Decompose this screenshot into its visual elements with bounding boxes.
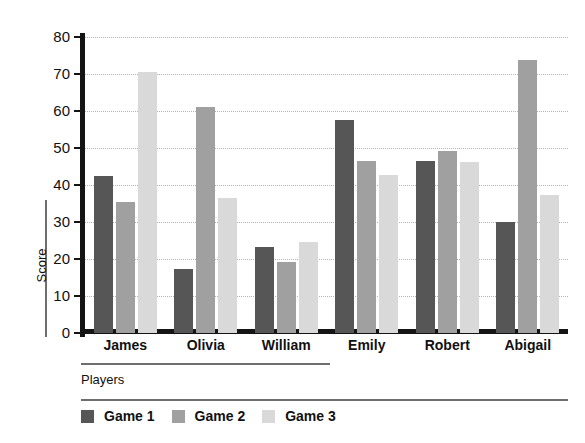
bar bbox=[299, 242, 318, 333]
plot-area bbox=[85, 37, 568, 333]
x-axis-category-label: William bbox=[246, 337, 327, 353]
legend-item[interactable]: Game 1 bbox=[81, 408, 155, 424]
bar bbox=[496, 222, 515, 333]
legend-label: Game 3 bbox=[285, 408, 336, 424]
legend-item[interactable]: Game 3 bbox=[262, 408, 336, 424]
bar bbox=[196, 107, 215, 333]
bar bbox=[174, 269, 193, 333]
y-tick-label: 70 bbox=[26, 66, 70, 81]
bar bbox=[94, 176, 113, 333]
legend-swatch-icon bbox=[172, 410, 185, 423]
bar bbox=[277, 262, 296, 333]
legend-item[interactable]: Game 2 bbox=[172, 408, 246, 424]
legend-swatch-icon bbox=[81, 410, 94, 423]
bar bbox=[416, 161, 435, 333]
x-axis-category-label: Robert bbox=[407, 337, 488, 353]
y-tick-label: 50 bbox=[26, 140, 70, 155]
bar-group bbox=[174, 37, 237, 333]
x-axis-category-label: Abigail bbox=[488, 337, 569, 353]
bar bbox=[218, 198, 237, 333]
bar-group bbox=[94, 37, 157, 333]
bar bbox=[540, 195, 559, 333]
legend: Game 1Game 2Game 3 bbox=[81, 408, 353, 424]
legend-rule bbox=[81, 399, 568, 401]
bar bbox=[255, 247, 274, 333]
bar-group bbox=[496, 37, 559, 333]
x-axis-title: Players bbox=[81, 372, 124, 387]
y-tick-label: 80 bbox=[26, 29, 70, 44]
y-tick-label: 60 bbox=[26, 103, 70, 118]
y-tick-label: 40 bbox=[26, 177, 70, 192]
legend-label: Game 2 bbox=[195, 408, 246, 424]
x-axis-title-rule bbox=[81, 363, 330, 365]
x-axis-category-label: Emily bbox=[327, 337, 408, 353]
bar bbox=[138, 72, 157, 333]
bar-group bbox=[255, 37, 318, 333]
x-axis-category-label: James bbox=[85, 337, 166, 353]
legend-label: Game 1 bbox=[104, 408, 155, 424]
bar bbox=[379, 175, 398, 333]
y-tick-label: 0 bbox=[26, 325, 70, 340]
x-axis-category-label: Olivia bbox=[166, 337, 247, 353]
bar bbox=[460, 162, 479, 333]
bar bbox=[518, 60, 537, 333]
legend-swatch-icon bbox=[262, 410, 275, 423]
bar-chart: 01020304050607080 JamesOliviaWilliamEmil… bbox=[0, 0, 585, 443]
bar bbox=[335, 120, 354, 333]
bar bbox=[116, 202, 135, 333]
bar-group bbox=[416, 37, 479, 333]
bar-group bbox=[335, 37, 398, 333]
y-axis-title: Score bbox=[34, 221, 49, 311]
bar bbox=[357, 161, 376, 333]
bar bbox=[438, 151, 457, 333]
